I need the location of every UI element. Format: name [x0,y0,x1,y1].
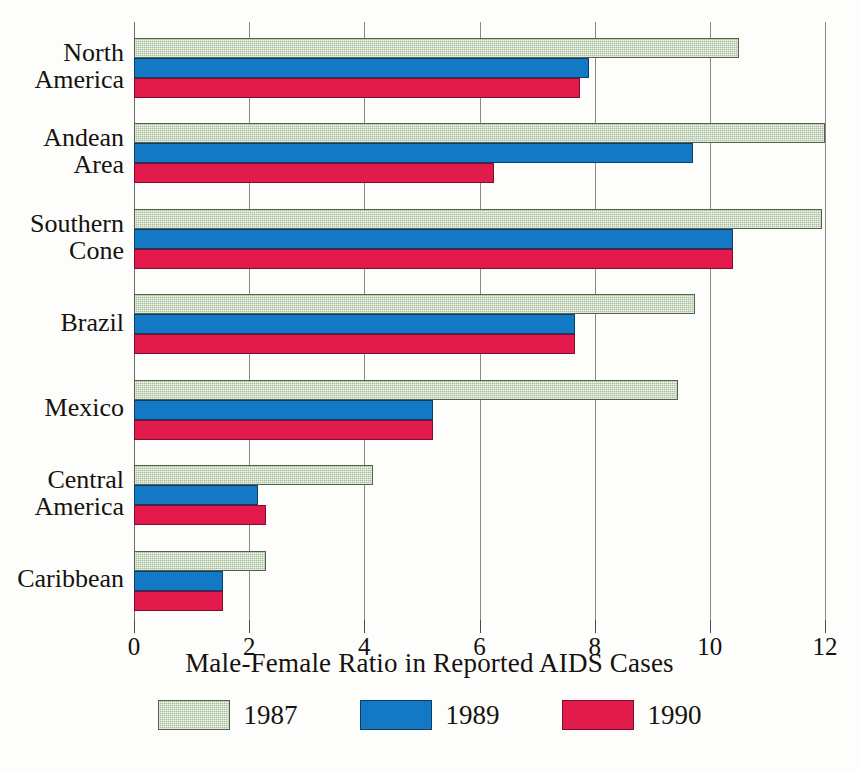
legend-item-1990[interactable]: 1990 [562,700,702,730]
bar-caribbean-1989 [134,571,223,591]
x-tick-12 [825,620,826,633]
bar-central-america-1987 [134,465,373,485]
bar-southern-cone-1990 [134,249,733,269]
category-label-caribbean: Caribbean [0,565,124,592]
bar-brazil-1989 [134,314,575,334]
bar-central-america-1990 [134,505,266,525]
x-tick-10 [710,620,711,633]
legend-label-1987: 1987 [244,702,298,729]
legend-item-1987[interactable]: 1987 [158,700,298,730]
gridline-8 [595,22,596,620]
category-label-line: Area [0,151,124,178]
x-tick-6 [480,620,481,633]
bar-mexico-1989 [134,400,433,420]
bar-north-america-1990 [134,78,580,98]
category-label-andean-area: AndeanArea [0,124,124,178]
gridline-12 [825,22,826,620]
legend-swatch-1989 [360,700,432,730]
x-tick-0 [134,620,135,633]
legend-label-1990: 1990 [648,702,702,729]
plot-area: 024681012 [134,22,825,620]
bar-andean-area-1989 [134,143,693,163]
bar-north-america-1987 [134,38,739,58]
x-tick-4 [364,620,365,633]
category-label-line: Central [0,466,124,493]
bar-brazil-1990 [134,334,575,354]
x-tick-2 [249,620,250,633]
category-label-north-america: NorthAmerica [0,39,124,93]
chart-plot-wrapper: NorthAmericaAndeanAreaSouthernConeBrazil… [0,0,859,640]
legend-item-1989[interactable]: 1989 [360,700,500,730]
figure-aids-male-female-ratio: NorthAmericaAndeanAreaSouthernConeBrazil… [0,0,859,772]
bar-caribbean-1990 [134,591,223,611]
legend-label-1989: 1989 [446,702,500,729]
bar-andean-area-1990 [134,163,494,183]
category-label-mexico: Mexico [0,394,124,421]
category-label-line: North [0,39,124,66]
bar-andean-area-1987 [134,123,825,143]
bar-southern-cone-1987 [134,209,822,229]
category-label-line: Mexico [0,394,124,421]
bar-caribbean-1987 [134,551,266,571]
chart-legend: 198719891990 [0,700,859,730]
x-tick-8 [595,620,596,633]
category-label-line: Andean [0,124,124,151]
bar-southern-cone-1989 [134,229,733,249]
category-label-line: America [0,66,124,93]
bar-north-america-1989 [134,58,589,78]
bar-central-america-1989 [134,485,258,505]
bar-brazil-1987 [134,294,695,314]
bar-mexico-1987 [134,380,678,400]
legend-swatch-1990 [562,700,634,730]
category-label-brazil: Brazil [0,309,124,336]
category-label-line: Caribbean [0,565,124,592]
category-label-line: Brazil [0,309,124,336]
gridline-10 [710,22,711,620]
bar-mexico-1990 [134,420,433,440]
figure-caption [0,760,859,772]
x-axis-title: Male-Female Ratio in Reported AIDS Cases [0,648,859,679]
category-label-line: America [0,493,124,520]
legend-swatch-1987 [158,700,230,730]
category-label-line: Southern [0,210,124,237]
category-label-southern-cone: SouthernCone [0,210,124,264]
category-label-central-america: CentralAmerica [0,466,124,520]
category-label-line: Cone [0,237,124,264]
